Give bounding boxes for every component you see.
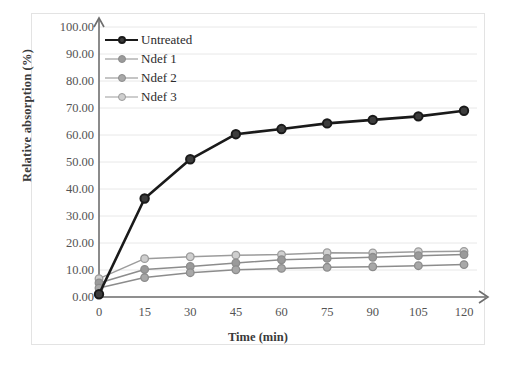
data-point-marker (369, 116, 377, 124)
chart-legend: UntreatedNdef 1Ndef 2Ndef 3 (105, 30, 192, 106)
data-point-marker (369, 263, 377, 271)
y-axis-tick-label: 20.00 (66, 236, 94, 251)
legend-item-ndef-1[interactable]: Ndef 1 (105, 49, 192, 68)
x-axis-tick-label: 15 (138, 305, 151, 320)
data-point-marker (95, 290, 103, 298)
legend-label: Ndef 2 (141, 70, 177, 86)
data-point-marker (460, 107, 468, 115)
data-point-marker (460, 261, 468, 269)
x-axis-tick-label: 90 (367, 305, 380, 320)
x-axis-tick-labels: 0153045607590105120 (0, 305, 517, 325)
data-point-marker (232, 251, 240, 259)
y-axis-tick-label: 10.00 (66, 263, 94, 278)
legend-label: Ndef 1 (141, 51, 177, 67)
data-point-marker (186, 253, 194, 261)
y-axis-tick-label: 0.00 (72, 290, 94, 305)
x-axis-tick-label: 30 (184, 305, 197, 320)
data-point-marker (141, 255, 149, 263)
chart-plot-area: Relative absorption (%) 0.0010.0020.0030… (0, 0, 517, 372)
legend-label: Ndef 3 (141, 89, 177, 105)
y-axis-tick-label: 70.00 (66, 101, 94, 116)
x-axis-tick-label: 45 (230, 305, 243, 320)
y-axis-tick-label: 60.00 (66, 128, 94, 143)
data-point-marker (414, 112, 422, 120)
data-point-marker (278, 256, 286, 264)
legend-item-ndef-3[interactable]: Ndef 3 (105, 87, 192, 106)
y-axis-tick-label: 80.00 (66, 74, 94, 89)
data-point-marker (278, 265, 286, 273)
data-point-marker (232, 266, 240, 274)
data-point-marker (460, 251, 468, 259)
x-axis-tick-label: 120 (455, 305, 474, 320)
x-axis-title: Time (min) (228, 330, 288, 345)
y-axis-tick-label: 30.00 (66, 209, 94, 224)
x-axis-tick-label: 105 (409, 305, 428, 320)
x-axis-tick-label: 60 (275, 305, 288, 320)
data-point-marker (415, 262, 423, 270)
data-point-marker (141, 266, 149, 274)
data-point-marker (415, 252, 423, 260)
y-axis-tick-label: 40.00 (66, 182, 94, 197)
y-axis-title: Relative absorption (%) (20, 36, 35, 196)
x-axis-tick-label: 0 (96, 305, 102, 320)
data-point-marker (186, 269, 194, 277)
legend-item-ndef-2[interactable]: Ndef 2 (105, 68, 192, 87)
x-axis-tick-label: 75 (321, 305, 334, 320)
data-point-marker (323, 255, 331, 263)
data-point-marker (277, 125, 285, 133)
data-point-marker (141, 274, 149, 282)
data-point-marker (369, 254, 377, 262)
data-point-marker (140, 194, 148, 202)
legend-label: Untreated (141, 32, 192, 48)
y-axis-tick-label: 90.00 (66, 47, 94, 62)
data-point-marker (186, 155, 194, 163)
data-point-marker (323, 264, 331, 272)
y-axis-tick-label: 100.00 (60, 20, 94, 35)
legend-item-untreated[interactable]: Untreated (105, 30, 192, 49)
y-axis-tick-label: 50.00 (66, 155, 94, 170)
data-point-marker (232, 130, 240, 138)
data-point-marker (323, 119, 331, 127)
